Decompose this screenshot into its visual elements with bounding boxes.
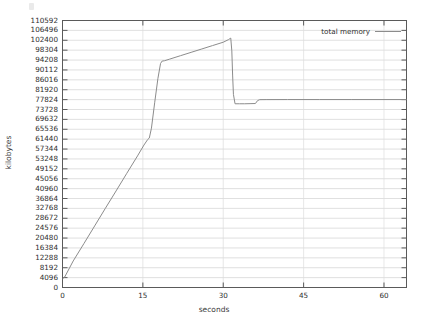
- data-series-layer: [63, 38, 407, 279]
- gridlines: [63, 21, 407, 278]
- series-line-total-memory: [63, 38, 407, 279]
- legend-entry-label: total memory: [280, 27, 370, 36]
- y-tick-marks: [63, 21, 407, 288]
- plot-area: [0, 0, 428, 327]
- plot-border: [63, 21, 407, 288]
- memory-usage-chart: kilobytes seconds 0409681921228816384204…: [0, 0, 428, 327]
- x-gridlines: [143, 21, 384, 288]
